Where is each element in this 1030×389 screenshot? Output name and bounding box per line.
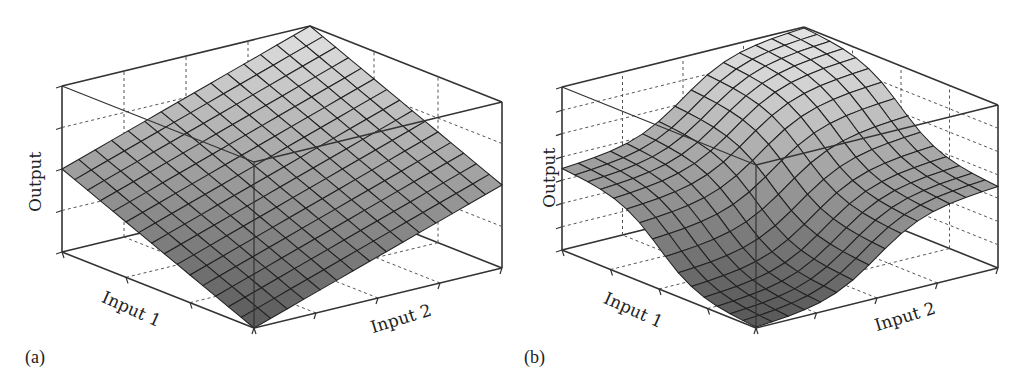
surface-plot-b	[515, 0, 1030, 389]
z-axis-label: Output	[539, 148, 559, 208]
chart-panel-a: Output Input 1 Input 2 (a)	[0, 0, 515, 389]
surface-plot-a	[0, 0, 515, 389]
surface-mesh	[562, 28, 998, 327]
panel-label-b: (b)	[524, 347, 545, 368]
chart-panel-b: Output Input 1 Input 2 (b)	[515, 0, 1030, 389]
panel-label-a: (a)	[25, 347, 45, 368]
z-axis-label: Output	[25, 152, 45, 212]
